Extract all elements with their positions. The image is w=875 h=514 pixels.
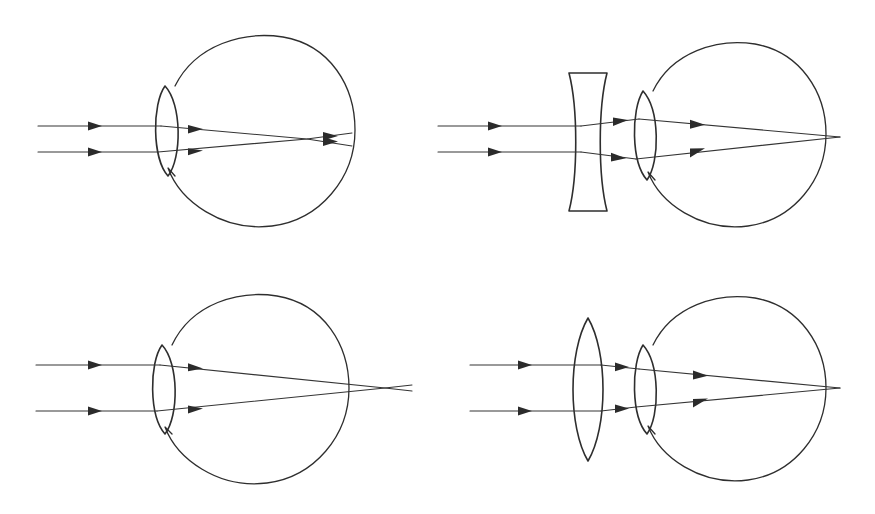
refracted-ray-upper: [639, 119, 840, 137]
diverged-ray-lower: [581, 152, 636, 159]
eyeball-outline: [165, 295, 349, 484]
ray-arrowhead-lower-incoming: [88, 148, 102, 157]
refracted-ray-upper: [639, 369, 840, 388]
cornea-lens: [634, 345, 656, 434]
ray-arrowhead-lower-refracted: [690, 148, 705, 157]
ray-arrowhead-upper-diverged: [613, 118, 628, 127]
refracted-ray-lower: [636, 388, 840, 407]
panel-bottom-right: [470, 297, 840, 481]
ray-arrowhead-upper-incoming: [88, 122, 102, 131]
ray-arrowhead-upper-refracted: [188, 125, 203, 134]
refracted-ray-lower: [158, 133, 352, 152]
ray-arrowhead-upper-refracted: [693, 371, 708, 380]
cornea-lens: [153, 345, 176, 434]
panel-bottom-left: [36, 295, 412, 484]
ray-arrowhead-upper-converged: [615, 363, 629, 372]
diverged-ray-upper: [581, 119, 639, 126]
ray-arrowhead-lower-converged: [615, 405, 629, 413]
panel-top-left: [38, 36, 355, 227]
refracted-ray-lower: [636, 137, 840, 159]
eyeball-outline: [648, 297, 826, 481]
ray-arrowhead-upper-incoming: [488, 122, 502, 131]
eyeball-outline: [648, 43, 826, 227]
optics-diagram-canvas: [0, 0, 875, 514]
ray-arrowhead-upper-incoming: [518, 361, 532, 370]
concave-lens: [569, 73, 607, 211]
cornea-lens: [634, 91, 656, 180]
ray-arrowhead-upper-refracted: [690, 120, 705, 129]
ray-arrowhead-lower-incoming: [518, 407, 532, 416]
cornea-lens: [156, 86, 179, 176]
ray-arrowhead-lower-incoming: [88, 407, 102, 416]
optics-figure-root: [0, 0, 875, 514]
eyeball-outline: [168, 36, 355, 227]
panel-top-right: [438, 43, 840, 227]
convex-lens: [573, 318, 603, 461]
ray-arrowhead-upper-refracted: [188, 363, 203, 371]
ray-arrowhead-upper-incoming: [88, 361, 102, 370]
ray-arrowhead-lower-incoming: [488, 148, 502, 157]
